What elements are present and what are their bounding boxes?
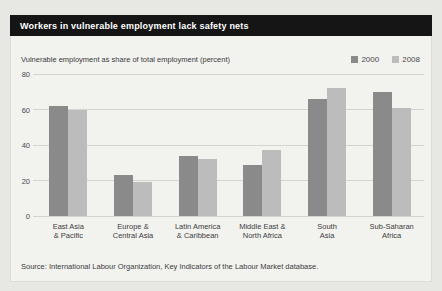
bar-2008-sub-saharan-africa	[392, 108, 411, 216]
bar-2000-latin-america-caribbean	[179, 156, 198, 216]
bar-2000-south-asia	[308, 99, 327, 216]
legend-swatch-2000-icon	[351, 56, 358, 63]
figure-title: Workers in vulnerable employment lack sa…	[20, 21, 249, 31]
bar-group-sub-saharan-africa	[359, 74, 424, 216]
bar-2000-east-asia-pacific	[49, 106, 68, 216]
bar-group-south-asia	[295, 74, 360, 216]
screenshot-root: { "header": { "title": "Workers in vulne…	[0, 0, 442, 291]
y-tick-label-20: 20	[22, 176, 30, 185]
legend-label-2008: 2008	[402, 55, 420, 64]
x-axis-label-middle-east-north-africa: Middle East &North Africa	[230, 222, 295, 240]
y-tick-label-0: 0	[26, 212, 30, 221]
legend-label-2000: 2000	[361, 55, 379, 64]
source-note: Source: International Labour Organizatio…	[21, 262, 318, 271]
chart-header-row: Vulnerable employment as share of total …	[21, 55, 420, 64]
bar-2000-middle-east-north-africa	[243, 165, 262, 216]
legend-item-2000: 2000	[351, 55, 379, 64]
bar-2000-sub-saharan-africa	[373, 92, 392, 216]
chart-subtitle: Vulnerable employment as share of total …	[21, 55, 230, 64]
x-axis-label-europe-central-asia: Europe &Central Asia	[101, 222, 166, 240]
y-tick-label-80: 80	[22, 70, 30, 79]
bars-layer	[36, 74, 424, 216]
x-axis-label-sub-saharan-africa: Sub-SaharanAfrica	[359, 222, 424, 240]
bar-group-latin-america-caribbean	[165, 74, 230, 216]
x-axis-labels: East Asia& PacificEurope &Central AsiaLa…	[36, 222, 424, 240]
bar-2008-south-asia	[327, 88, 346, 216]
plot-area	[36, 74, 424, 216]
x-axis-label-east-asia-pacific: East Asia& Pacific	[36, 222, 101, 240]
bar-group-europe-central-asia	[101, 74, 166, 216]
legend-item-2008: 2008	[392, 55, 420, 64]
bar-group-east-asia-pacific	[36, 74, 101, 216]
bar-2000-europe-central-asia	[114, 175, 133, 216]
bar-2008-middle-east-north-africa	[262, 150, 281, 216]
bar-group-middle-east-north-africa	[230, 74, 295, 216]
chart-legend: 2000 2008	[338, 55, 420, 64]
bar-2008-latin-america-caribbean	[198, 159, 217, 216]
x-axis-label-south-asia: SouthAsia	[295, 222, 360, 240]
y-axis-tick-labels: 020406080	[11, 74, 30, 216]
x-axis-label-latin-america-caribbean: Latin America& Caribbean	[165, 222, 230, 240]
bar-2008-east-asia-pacific	[68, 110, 87, 217]
figure-title-bar: Workers in vulnerable employment lack sa…	[10, 15, 432, 36]
bar-2008-europe-central-asia	[133, 182, 152, 216]
y-tick-label-60: 60	[22, 105, 30, 114]
figure-panel: Workers in vulnerable employment lack sa…	[10, 15, 432, 282]
y-tick-label-40: 40	[22, 141, 30, 150]
legend-swatch-2008-icon	[392, 56, 399, 63]
